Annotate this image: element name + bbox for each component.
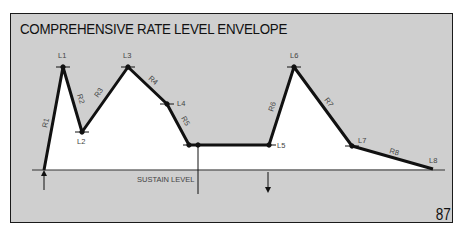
label-r6: R6 [266,101,278,113]
envelope-area [44,67,433,170]
label-l4: L4 [177,99,185,108]
page-number: 87 [436,206,451,224]
label-r1: R1 [40,117,51,128]
label-l5: L5 [277,141,285,150]
label-l8: L8 [429,156,437,165]
label-l6: L6 [290,51,298,60]
sustain-level-label: SUSTAIN LEVEL [137,175,194,184]
label-l2: L2 [77,137,85,146]
key-off-arrow-icon [265,172,271,193]
label-r3: R3 [92,86,105,99]
key-on-arrow-icon [41,170,47,190]
label-l1: L1 [58,51,66,60]
envelope-diagram: L1 L2 L3 L4 L5 L6 L7 L8 R1 R2 R3 R4 R5 R… [0,0,463,235]
label-r2: R2 [75,93,87,105]
label-l3: L3 [123,51,131,60]
label-r5: R5 [179,115,192,128]
label-l7: L7 [358,136,366,145]
